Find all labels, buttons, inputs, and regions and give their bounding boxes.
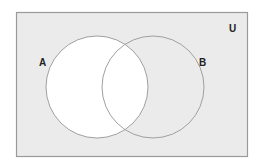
set-a-circle [46,36,148,138]
set-b-label: B [199,58,206,68]
universe-label: U [229,24,236,34]
venn-svg [0,0,260,166]
venn-diagram: U A B [0,0,260,166]
set-a-label: A [39,58,46,68]
